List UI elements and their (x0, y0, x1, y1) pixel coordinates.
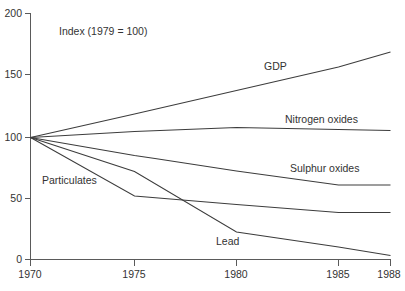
y-axis-group: 200 150 100 50 0 (4, 7, 30, 265)
y-axis-tick-labels: 200 150 100 50 0 (4, 7, 22, 265)
x-tick-label-1975: 1975 (122, 268, 146, 280)
line-chart: 200 150 100 50 0 1970 1975 1980 1985 (0, 0, 405, 291)
x-tick-label-1985: 1985 (326, 268, 350, 280)
y-tick-label-50: 50 (10, 192, 22, 204)
series-label-sulphur-oxides: Sulphur oxides (290, 162, 359, 174)
series-label-lead: Lead (216, 235, 240, 247)
series-line-nitrogen-oxides (31, 128, 391, 138)
y-tick-label-200: 200 (4, 7, 22, 19)
y-axis-ticks (25, 14, 31, 260)
series-line-lead (31, 138, 391, 256)
series-lines-group (31, 52, 391, 256)
x-tick-label-1988: 1988 (377, 268, 401, 280)
series-label-nitrogen-oxides: Nitrogen oxides (285, 113, 358, 125)
x-tick-label-1970: 1970 (18, 268, 42, 280)
y-tick-label-100: 100 (4, 131, 22, 143)
series-label-gdp: GDP (264, 60, 287, 72)
x-axis-group: 1970 1975 1980 1985 1988 (18, 260, 401, 281)
series-label-particulates: Particulates (42, 174, 97, 186)
chart-container: 200 150 100 50 0 1970 1975 1980 1985 (0, 0, 405, 291)
y-tick-label-0: 0 (16, 253, 22, 265)
x-tick-label-1980: 1980 (224, 268, 248, 280)
x-axis-ticks (31, 260, 391, 267)
x-axis-tick-labels: 1970 1975 1980 1985 1988 (18, 268, 401, 280)
y-tick-label-150: 150 (4, 68, 22, 80)
chart-title: Index (1979 = 100) (59, 25, 147, 37)
series-labels-group: GDP Nitrogen oxides Sulphur oxides Parti… (42, 60, 359, 247)
